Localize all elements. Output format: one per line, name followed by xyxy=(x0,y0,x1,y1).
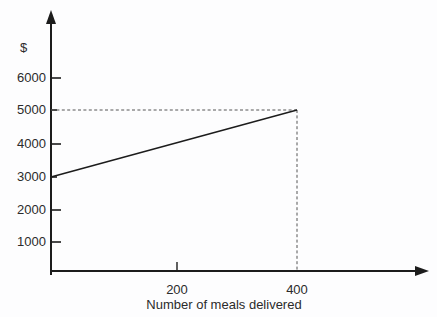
x-axis-title: Number of meals delivered xyxy=(104,298,344,311)
series-total-cost-line xyxy=(51,110,297,177)
chart-plot-area xyxy=(0,0,437,317)
x-tick-label-400: 400 xyxy=(267,283,327,296)
y-tick-label-2000: 2000 xyxy=(2,203,46,216)
y-tick-label-1000: 1000 xyxy=(2,235,46,248)
cost-line-chart: $ 6000 5000 4000 3000 2000 1000 200 400 … xyxy=(0,0,437,317)
y-tick-label-4000: 4000 xyxy=(2,137,46,150)
y-axis-unit-label: $ xyxy=(20,41,27,54)
y-tick-label-6000: 6000 xyxy=(2,71,46,84)
y-tick-label-3000: 3000 xyxy=(2,170,46,183)
y-tick-label-5000: 5000 xyxy=(2,103,46,116)
y-axis-arrow-icon xyxy=(46,10,56,24)
x-axis-arrow-icon xyxy=(415,266,429,276)
x-tick-label-200: 200 xyxy=(147,283,207,296)
